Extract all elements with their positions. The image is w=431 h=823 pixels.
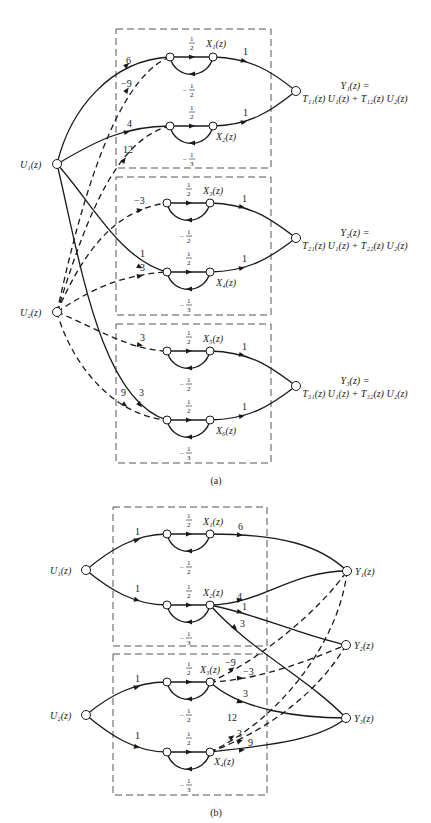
svg-text:1: 1 [187, 181, 191, 189]
output-eq-y2-line1: Y₂(z) = [341, 227, 370, 239]
gain-u2-x4: 3 [140, 262, 145, 273]
figure-b: 1 1 1 1 12 12 12 12 [50, 507, 375, 819]
state-chain-b-x3 [167, 680, 210, 702]
state-label-x1: X₁(z) [205, 38, 227, 50]
output-eq-y1-line1: Y₁(z) = [341, 80, 370, 92]
svg-text:3: 3 [190, 160, 194, 168]
gain-x1-y1: 1 [243, 46, 248, 57]
gain-b-x3-y3: 3 [243, 688, 248, 699]
edge-u1-x6 [57, 164, 167, 420]
edge-b-u2-x3 [86, 682, 167, 715]
gain-u1-x2: 4 [127, 118, 132, 129]
svg-text:1: 1 [187, 707, 191, 715]
gain-b-u2-x4: 1 [135, 730, 140, 741]
edge-b-x4-y3 [210, 718, 346, 752]
node-x5 [206, 347, 214, 355]
svg-text:3: 3 [187, 306, 191, 314]
svg-text:1: 1 [190, 82, 194, 90]
svg-text:2: 2 [187, 407, 191, 415]
input-label-u1: U₁(z) [20, 159, 42, 171]
svg-text:2: 2 [187, 592, 191, 600]
edge-b-u2-x4 [86, 715, 167, 752]
svg-text:−: − [183, 156, 187, 164]
caption-b: (b) [210, 807, 222, 819]
svg-text:2: 2 [187, 338, 191, 346]
svg-text:1: 1 [187, 297, 191, 305]
edge-x4-y2 [210, 238, 296, 272]
gain-x4-y2: 1 [242, 253, 247, 264]
svg-text:1: 1 [187, 329, 191, 337]
svg-text:−: − [180, 450, 184, 458]
edge-u1-x4 [57, 164, 167, 272]
svg-text:3: 3 [187, 786, 191, 794]
node-b-y3 [342, 714, 351, 723]
output-eq-y3-line2: T₃₁(z) U₁(z) + T₃₂(z) U₂(z) [302, 388, 408, 400]
edge-x2-y1 [213, 91, 296, 126]
nodes-b [82, 530, 352, 756]
input-label-u2: U₂(z) [20, 307, 42, 319]
state-label-x2: X₂(z) [215, 131, 237, 143]
gain-x3-y2: 1 [242, 193, 247, 204]
edge-b-x2-y1 [210, 571, 347, 605]
gain-b-x2-y3: 3 [240, 618, 245, 629]
svg-text:1: 1 [187, 376, 191, 384]
node-u1 [53, 160, 62, 169]
svg-text:2: 2 [190, 91, 194, 99]
state-chain-b-x4 [167, 750, 210, 772]
state-label-b-x4: X₄(z) [213, 756, 235, 768]
svg-text:−: − [180, 712, 184, 720]
input-label-b-u2: U₂(z) [50, 710, 72, 722]
node-x1 [209, 53, 217, 61]
svg-text:1: 1 [187, 398, 191, 406]
signal-flow-graphs: 6 −9 4 12 −3 1 3 3 9 3 [0, 0, 431, 823]
svg-text:2: 2 [187, 190, 191, 198]
svg-text:1: 1 [190, 104, 194, 112]
gain-b-u2-x3: 1 [135, 673, 140, 684]
output-label-b-y2: Y₂(z) [354, 640, 374, 652]
gain-x6-y3: 1 [242, 401, 247, 412]
gain-u2-x1: −9 [121, 78, 132, 89]
state-chain-x1 [170, 55, 213, 77]
edge-u1-x2 [57, 126, 170, 164]
gain-b-x4-y1: 12 [227, 712, 237, 723]
svg-text:−: − [180, 233, 184, 241]
gain-b-x3-y1: −9 [225, 657, 236, 668]
gain-b-u1-x1: 1 [135, 526, 140, 537]
gain-u2-x2: 12 [123, 144, 133, 155]
svg-text:2: 2 [190, 113, 194, 121]
state-chain-x5 [167, 349, 210, 371]
svg-text:−: − [180, 564, 184, 572]
caption-a: (a) [210, 475, 221, 487]
edge-u2-x3 [57, 203, 167, 312]
node-b-y1 [343, 567, 352, 576]
gain-b-u1-x2: 1 [135, 583, 140, 594]
node-y3 [292, 382, 301, 391]
state-label-x6: X₆(z) [215, 425, 237, 437]
edge-b-u1-x1 [86, 534, 167, 570]
svg-text:1: 1 [190, 151, 194, 159]
svg-text:2: 2 [187, 568, 191, 576]
edge-u2-x6 [57, 312, 167, 420]
svg-text:1: 1 [187, 512, 191, 520]
svg-text:1: 1 [187, 730, 191, 738]
svg-text:1: 1 [187, 559, 191, 567]
gain-b-x2-y2: 1 [242, 601, 247, 612]
gain-u1-x6: 3 [139, 387, 144, 398]
state-label-b-x3: X₃(z) [199, 664, 221, 676]
svg-text:2: 2 [187, 259, 191, 267]
state-chain-b-x2 [167, 603, 210, 625]
edge-u1-x1 [57, 57, 170, 164]
gain-b-x4-y2: 3 [237, 728, 242, 739]
node-b-u2 [82, 711, 91, 720]
node-y1 [292, 87, 301, 96]
output-eq-y3-line1: Y₃(z) = [341, 375, 370, 387]
svg-text:2: 2 [187, 385, 191, 393]
node-b-x2 [206, 601, 214, 609]
edge-b-u1-x2 [86, 570, 167, 605]
node-b-x1 [206, 530, 214, 538]
svg-text:2: 2 [187, 739, 191, 747]
svg-text:1: 1 [187, 583, 191, 591]
node-b-x3 [206, 678, 214, 686]
node-x2 [209, 122, 217, 130]
node-x3 [206, 199, 214, 207]
